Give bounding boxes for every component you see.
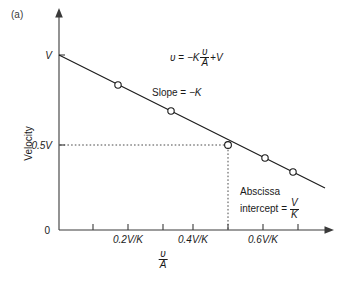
abscissa-intercept-annotation: Abscissa intercept = V K <box>240 186 300 221</box>
data-point <box>290 169 296 175</box>
abscissa-intercept-line2: intercept = <box>240 203 287 216</box>
abscissa-intercept-denominator: K <box>290 210 299 221</box>
abscissa-intercept-line2-row: intercept = V K <box>240 199 300 221</box>
equation-tail: +V <box>210 52 223 63</box>
equation-fraction: υ A <box>200 47 209 69</box>
equation-equals: = <box>178 52 184 63</box>
abscissa-intercept-fraction: V K <box>290 198 299 220</box>
x-tick-label-04vk: 0.4V/K <box>178 234 208 245</box>
abscissa-intercept-numerator: V <box>290 198 299 210</box>
y-axis-arrowhead <box>55 8 63 18</box>
slope-value: −K <box>189 87 202 98</box>
y-tick-label-v: V <box>36 50 52 61</box>
y-tick-label-zero: 0 <box>34 225 50 236</box>
x-axis-title-fraction: υ A <box>159 249 168 271</box>
x-axis-title: υ A <box>158 249 169 271</box>
equation-lhs: υ <box>170 52 176 63</box>
x-axis-title-denominator: A <box>159 260 168 271</box>
data-point <box>225 142 232 149</box>
slope-annotation: Slope = −K <box>152 87 202 98</box>
data-point <box>115 82 121 88</box>
slope-label-text: Slope = <box>152 87 186 98</box>
x-tick-label-02vk: 0.2V/K <box>113 234 143 245</box>
data-point <box>168 108 174 114</box>
equation-coefficient: −K <box>187 52 200 63</box>
figure-panel-a: (a) Velocity V 0.5V 0 0.2V <box>0 0 342 288</box>
x-axis-arrowhead <box>325 226 335 234</box>
equation-annotation: υ = −K υ A +V <box>170 47 223 69</box>
equation-fraction-denominator: A <box>200 58 209 69</box>
regression-line <box>59 55 325 188</box>
data-point <box>262 155 268 161</box>
y-tick-label-half-v: 0.5V <box>18 140 52 151</box>
x-tick-label-06vk: 0.6V/K <box>248 234 278 245</box>
